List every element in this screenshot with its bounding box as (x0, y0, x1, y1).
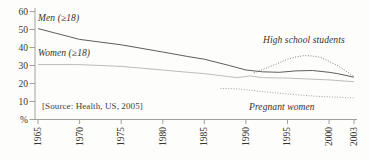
source-note: [Source: Health, US, 2005] (42, 101, 143, 111)
x-axis-tick-label: 1975 (116, 127, 126, 146)
x-axis-tick-label: 1965 (33, 127, 43, 146)
y-axis-tick-label: 50 (19, 25, 29, 35)
series-label-high-school-students: High school students (263, 35, 345, 45)
x-axis-tick-label: 2003 (349, 127, 359, 146)
y-axis-tick-label: 40 (19, 43, 29, 53)
x-axis-tick-label: 1980 (158, 127, 168, 146)
series-label-women: Women (≥18) (38, 48, 90, 58)
smoking-prevalence-chart: 605040302010%196519701975198019851990199… (0, 0, 369, 160)
x-axis-tick-label: 1985 (199, 127, 209, 146)
x-axis-tick-label: 1970 (75, 127, 85, 146)
series-label-pregnant-women: Pregnant women (249, 102, 315, 112)
y-axis-tick-label: 10 (19, 97, 29, 107)
y-axis-tick-label: 60 (19, 7, 29, 17)
series-label-men: Men (≥18) (38, 13, 79, 23)
series-line-pregnant-women (221, 88, 354, 98)
x-axis-tick-label: 1995 (282, 127, 292, 146)
series-line-high-school-students (254, 56, 354, 77)
x-axis-tick-label: 1990 (241, 127, 251, 146)
plot-area: 605040302010%196519701975198019851990199… (0, 0, 369, 160)
y-axis-tick-label: % (20, 115, 28, 125)
y-axis-tick-label: 20 (19, 79, 29, 89)
x-axis-tick-label: 2000 (324, 127, 334, 146)
series-line-women-18- (38, 65, 354, 82)
y-axis-tick-label: 30 (19, 61, 29, 71)
